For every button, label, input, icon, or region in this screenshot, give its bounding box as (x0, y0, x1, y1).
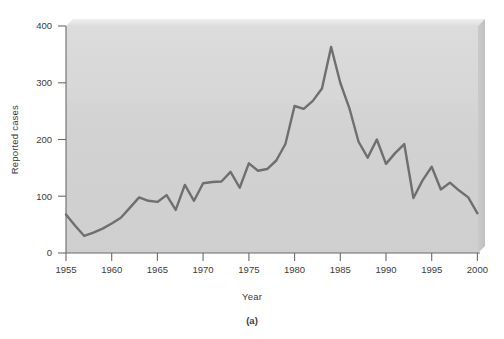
y-tick-label-300: 300 (36, 77, 52, 88)
y-tick-label-100: 100 (36, 191, 52, 202)
x-tick-label-1990: 1990 (375, 264, 396, 275)
line-chart: 0 100 200 300 400 1955 1960 1965 1970 19… (0, 0, 504, 339)
y-tick-label-200: 200 (36, 134, 52, 145)
x-tick-label-2000: 2000 (467, 264, 488, 275)
panel-top-bevel (66, 19, 485, 26)
y-axis-title: Reported cases (9, 105, 20, 174)
x-tick-label-1985: 1985 (330, 264, 351, 275)
figure-caption: (a) (0, 315, 504, 326)
x-axis-ticks: 1955 1960 1965 1970 1975 1980 1985 1990 … (55, 253, 488, 275)
x-tick-label-1960: 1960 (101, 264, 122, 275)
x-tick-label-1995: 1995 (421, 264, 442, 275)
x-tick-label-1955: 1955 (55, 264, 76, 275)
y-tick-label-400: 400 (36, 20, 52, 31)
panel-light-band (66, 78, 478, 100)
x-axis-title: Year (0, 291, 504, 302)
figure-panel-a: 0 100 200 300 400 1955 1960 1965 1970 19… (0, 0, 504, 339)
panel-face (66, 26, 478, 253)
panel-right-bevel (478, 19, 485, 253)
x-tick-label-1980: 1980 (284, 264, 305, 275)
y-tick-label-0: 0 (47, 247, 52, 258)
x-tick-label-1975: 1975 (238, 264, 259, 275)
plot-panel (66, 19, 485, 253)
x-tick-label-1970: 1970 (193, 264, 214, 275)
x-tick-label-1965: 1965 (147, 264, 168, 275)
y-axis-ticks: 0 100 200 300 400 (36, 20, 66, 258)
